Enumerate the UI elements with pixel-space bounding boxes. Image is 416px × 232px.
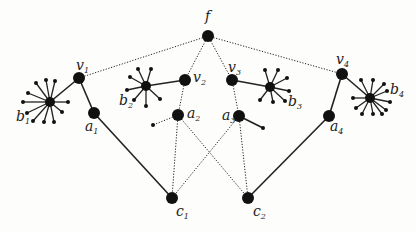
label-b1: b1 — [16, 108, 30, 126]
node-a2 — [172, 109, 184, 121]
spoke-leaf-b4-6 — [354, 106, 358, 110]
label-b3: b3 — [288, 93, 302, 111]
spoke-leaf-b1-9 — [42, 120, 46, 124]
label-v4: v4 — [336, 51, 349, 69]
spoke-leaf-b2-2 — [128, 75, 132, 79]
leaf-node-a3 — [261, 126, 265, 130]
label-v3: v3 — [228, 59, 241, 77]
spoke-leaf-b3-5 — [271, 100, 275, 104]
spoke-leaf-b3-0 — [263, 68, 267, 72]
leaf-node-a2 — [151, 123, 155, 127]
edge-a1-c1 — [94, 113, 172, 198]
spoke-leaf-b3-2 — [285, 76, 289, 80]
spoke-leaf-b4-7 — [384, 108, 388, 112]
spoke-leaf-b3-4 — [258, 98, 262, 102]
spoke-leaf-b3-6 — [283, 99, 287, 103]
edge-f-v1 — [79, 36, 208, 78]
node-f — [202, 30, 214, 42]
spoke-leaf-b4-8 — [360, 112, 364, 116]
spoke-leaf-b1-2 — [53, 79, 57, 83]
spoke-leaf-b1-4 — [21, 100, 25, 104]
edge-a2-c1 — [172, 115, 178, 198]
node-b4 — [365, 93, 375, 103]
label-a3: a3 — [222, 107, 235, 125]
spoke-leaf-b1-10 — [52, 120, 56, 124]
label-f: f — [204, 8, 213, 24]
edge-a4-c2 — [248, 116, 329, 198]
spoke-leaf-b3-1 — [276, 68, 280, 72]
label-a2: a2 — [187, 105, 200, 123]
spoke-leaf-b2-0 — [136, 67, 140, 71]
label-v2: v2 — [193, 69, 206, 87]
spoke-leaf-b1-3 — [26, 91, 30, 95]
spoke-leaf-b1-0 — [34, 81, 38, 85]
edge-a3-c2 — [239, 116, 248, 198]
spoke-leaf-b4-10 — [380, 112, 384, 116]
label-c2: c2 — [253, 203, 266, 221]
spoke-leaf-b2-1 — [149, 67, 153, 71]
spoke-leaf-b1-5 — [66, 100, 70, 104]
spoke-leaf-b4-2 — [382, 82, 386, 86]
label-c1: c1 — [176, 203, 189, 221]
label-a1: a1 — [85, 118, 98, 136]
node-b2 — [141, 81, 151, 91]
label-v1: v1 — [76, 57, 89, 75]
edge-a3-c1 — [172, 116, 239, 198]
spoke-leaf-b2-5 — [158, 97, 162, 101]
spoke-leaf-b4-9 — [371, 112, 375, 116]
spoke-leaf-b1-8 — [31, 119, 35, 123]
spoke-leaf-b4-0 — [359, 78, 363, 82]
node-v2 — [179, 74, 191, 86]
label-b2: b2 — [119, 92, 133, 110]
spoke-leaf-b1-6 — [25, 111, 29, 115]
spoke-leaf-b4-1 — [371, 78, 375, 82]
label-b4: b4 — [390, 81, 404, 99]
graph-diagram: fv1v2v3v4a1a2a3a4c1c2b1b2b3b4 — [0, 0, 416, 232]
node-b3 — [265, 82, 275, 92]
spoke-leaf-b2-6 — [144, 104, 148, 108]
nodes — [45, 30, 375, 204]
spoke-leaf-b4-5 — [388, 100, 392, 104]
spoke-leaf-b1-1 — [44, 78, 48, 82]
spoke-leaf-b4-3 — [385, 89, 389, 93]
node-v4 — [336, 68, 348, 80]
edge-v4-a4 — [329, 74, 342, 116]
edge-a2-c2 — [178, 115, 248, 198]
label-a4: a4 — [330, 118, 343, 136]
spoke-leaf-b1-7 — [60, 110, 64, 114]
node-b1 — [45, 97, 55, 107]
spoke-leaf-b4-4 — [351, 96, 355, 100]
